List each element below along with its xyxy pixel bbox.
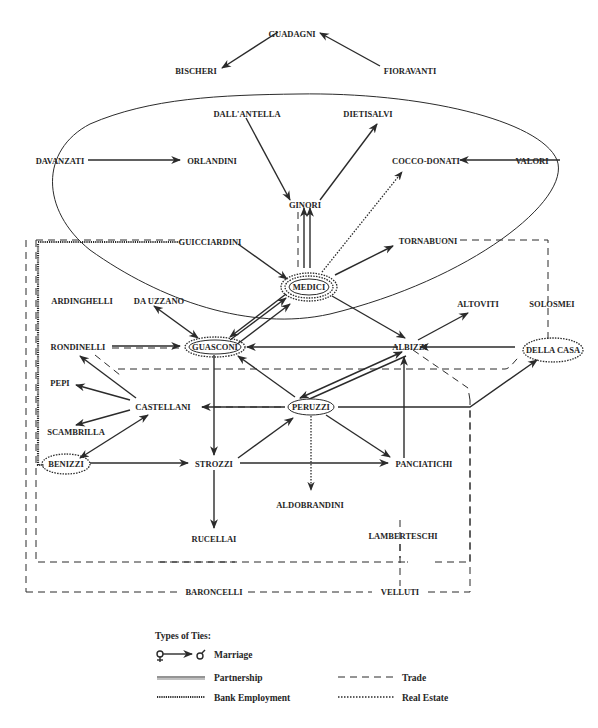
- real-estate-tie: [322, 172, 402, 272]
- legend-marriage: Marriage: [157, 650, 253, 662]
- legend-bank-employment: Bank Employment: [157, 693, 291, 703]
- node-ardinghelli: ARDINGHELLI: [51, 296, 113, 306]
- node-guicciardini: GUICCIARDINI: [179, 237, 243, 247]
- node-dauzzano: DA UZZANO: [134, 296, 185, 306]
- legend-real-estate-label: Real Estate: [402, 693, 448, 703]
- legend-partnership: Partnership: [157, 673, 263, 683]
- node-dietisalvi: DIETISALVI: [343, 109, 393, 119]
- node-guadagni: GUADAGNI: [268, 29, 316, 39]
- node-scambrilla: SCAMBRILLA: [47, 427, 105, 437]
- network-diagram: GUADAGNI BISCHERI FIORAVANTI DALL'ANTELL…: [0, 0, 598, 728]
- legend-real-estate: Real Estate: [338, 693, 448, 703]
- legend-bank-employment-label: Bank Employment: [214, 693, 291, 703]
- node-dallantella: DALL'ANTELLA: [213, 109, 281, 119]
- male-symbol-icon: [197, 653, 203, 659]
- node-medici: MEDICI: [293, 282, 326, 292]
- node-lamberteschi: LAMBERTESCHI: [368, 531, 438, 541]
- node-albizzi: ALBIZZI: [392, 342, 428, 352]
- node-panciatichi: PANCIATICHI: [396, 459, 454, 469]
- node-solosmei: SOLOSMEI: [529, 299, 575, 309]
- node-orlandini: ORLANDINI: [187, 156, 237, 166]
- node-davanzati: DAVANZATI: [36, 156, 85, 166]
- node-rucellai: RUCELLAI: [192, 534, 238, 544]
- legend: Types of Ties: Marriage Partnership Trad…: [155, 631, 448, 703]
- legend-title: Types of Ties:: [155, 631, 211, 641]
- node-dellacasa: DELLA CASA: [526, 345, 581, 355]
- node-guasconi: GUASCONI: [192, 342, 239, 352]
- legend-trade: Trade: [338, 673, 426, 683]
- node-fioravanti: FIORAVANTI: [384, 66, 437, 76]
- node-altoviti: ALTOVITI: [457, 299, 499, 309]
- node-rondinelli: RONDINELLI: [51, 342, 106, 352]
- node-peruzzi: PERUZZI: [292, 402, 330, 412]
- legend-marriage-label: Marriage: [214, 650, 253, 660]
- legend-partnership-label: Partnership: [214, 673, 263, 683]
- node-ginori: GINORI: [289, 200, 322, 210]
- node-coccodonati: COCCO-DONATI: [392, 156, 461, 166]
- node-valori: VALORI: [516, 156, 550, 166]
- node-aldobrandini: ALDOBRANDINI: [276, 500, 344, 510]
- node-baroncelli: BARONCELLI: [185, 587, 243, 597]
- node-tornabuoni: TORNABUONI: [399, 236, 458, 246]
- legend-trade-label: Trade: [402, 673, 426, 683]
- node-pepi: PEPI: [50, 378, 70, 388]
- female-symbol-icon: [157, 651, 163, 657]
- node-castellani: CASTELLANI: [135, 402, 191, 412]
- node-benizzi: BENIZZI: [48, 459, 84, 469]
- node-bischeri: BISCHERI: [175, 66, 217, 76]
- node-velluti: VELLUTI: [381, 587, 420, 597]
- node-strozzi: STROZZI: [195, 459, 233, 469]
